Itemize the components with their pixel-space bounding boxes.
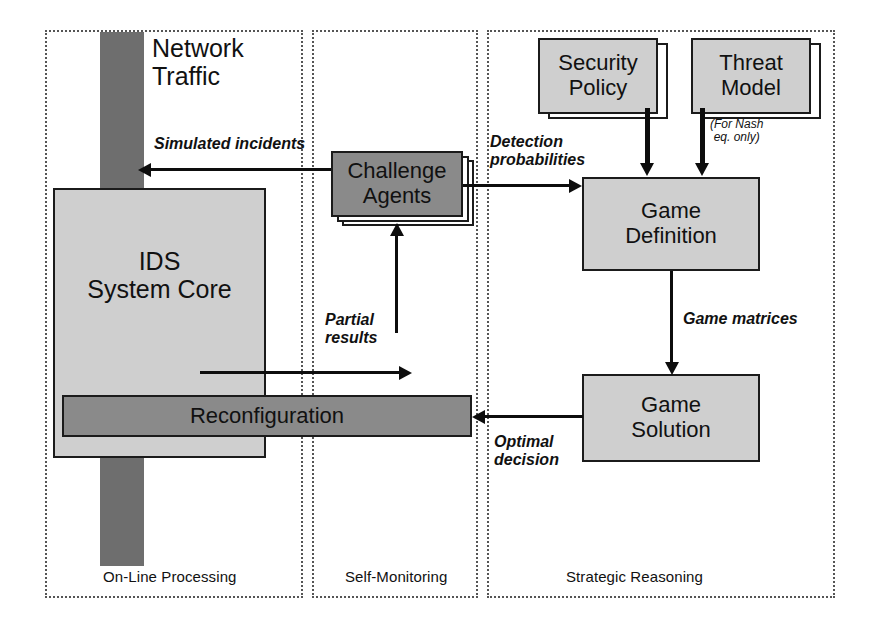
game-definition-box[interactable]: Game Definition bbox=[582, 177, 760, 271]
edge-optimal-decision-line bbox=[484, 415, 583, 418]
edge-challenge-agents-feed-arrowhead bbox=[390, 223, 404, 236]
game-solution-label: Game Solution bbox=[631, 393, 711, 442]
network-traffic-pipe-bottom bbox=[100, 456, 144, 566]
reconfiguration-label: Reconfiguration bbox=[190, 404, 344, 429]
edge-challenge-agents-feed-line bbox=[395, 235, 398, 333]
edge-detection-probabilities-line bbox=[463, 184, 570, 187]
challenge-agents-label: Challenge Agents bbox=[347, 159, 446, 208]
ids-system-core-label: IDS System Core bbox=[87, 247, 231, 303]
game-definition-label: Game Definition bbox=[625, 199, 717, 248]
security-policy-box[interactable]: Security Policy bbox=[538, 38, 658, 114]
zone-label-on-line-processing: On-Line Processing bbox=[103, 568, 237, 585]
edge-simulated-incidents-line bbox=[150, 168, 331, 171]
game-solution-box[interactable]: Game Solution bbox=[582, 374, 760, 462]
edge-game-matrices-line bbox=[670, 271, 673, 363]
edge-simulated-incidents-label: Simulated incidents bbox=[154, 135, 305, 153]
edge-security-policy-arrowhead bbox=[640, 163, 654, 176]
threat-model-label: Threat Model bbox=[719, 51, 783, 100]
edge-detection-probabilities-label: Detection probabilities bbox=[490, 133, 585, 168]
network-traffic-label: Network Traffic bbox=[152, 34, 244, 90]
edge-threat-model-arrowhead bbox=[695, 163, 709, 176]
edge-partial-results-line bbox=[200, 371, 400, 374]
edge-threat-model-line bbox=[700, 108, 705, 165]
edge-game-matrices-arrowhead bbox=[665, 362, 679, 375]
edge-partial-results-arrowhead bbox=[399, 366, 412, 380]
edge-security-policy-line bbox=[645, 108, 650, 165]
edge-detection-probabilities-arrowhead bbox=[569, 179, 582, 193]
zone-label-strategic-reasoning: Strategic Reasoning bbox=[566, 568, 703, 585]
edge-optimal-decision-label: Optimal decision bbox=[494, 433, 559, 468]
challenge-agents-box[interactable]: Challenge Agents bbox=[331, 151, 463, 217]
edge-simulated-incidents-arrowhead bbox=[138, 163, 151, 177]
edge-optimal-decision-arrowhead bbox=[472, 410, 485, 424]
reconfiguration-box[interactable]: Reconfiguration bbox=[62, 395, 472, 437]
zone-label-self-monitoring: Self-Monitoring bbox=[345, 568, 447, 585]
edge-game-matrices-label: Game matrices bbox=[683, 310, 798, 328]
security-policy-label: Security Policy bbox=[558, 51, 637, 100]
edge-partial-results-label: Partial results bbox=[325, 311, 377, 346]
for-nash-only-note: (For Nash eq. only) bbox=[710, 118, 763, 145]
diagram-canvas: Network Traffic IDS System Core Reconfig… bbox=[0, 0, 875, 629]
threat-model-box[interactable]: Threat Model bbox=[691, 38, 811, 114]
